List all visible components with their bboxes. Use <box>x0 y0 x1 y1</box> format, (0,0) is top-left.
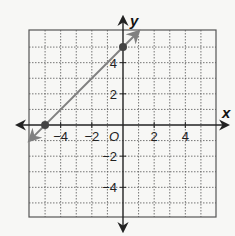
y-tick-label: −4 <box>102 180 117 195</box>
y-tick-label: −2 <box>102 149 117 164</box>
data-point <box>41 121 49 129</box>
origin-label: O <box>109 129 119 144</box>
x-tick-label: 2 <box>151 129 158 144</box>
data-point <box>119 43 127 51</box>
y-tick-label: 2 <box>110 87 117 102</box>
x-tick-label: 4 <box>182 129 189 144</box>
x-tick-label: −2 <box>84 129 99 144</box>
x-tick-label: −4 <box>53 129 68 144</box>
coordinate-plane: −4−22442−2−4 y x O <box>0 0 235 236</box>
x-axis-label: x <box>221 104 231 121</box>
y-axis-label: y <box>129 12 139 29</box>
